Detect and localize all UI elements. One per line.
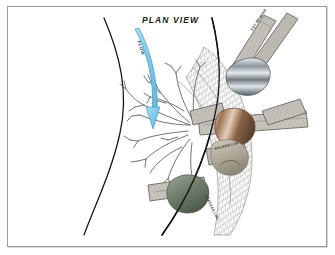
figure-canvas bbox=[8, 7, 326, 246]
ballast-boulder-lower bbox=[167, 175, 209, 213]
page-title: PLAN VIEW bbox=[142, 15, 199, 25]
figure-frame: PLAN VIEW FLOW KEY MEMBER RACKED LOG STA… bbox=[7, 6, 327, 247]
ballast-boulder-upper bbox=[226, 58, 270, 95]
figure-root: PLAN VIEW FLOW KEY MEMBER RACKED LOG STA… bbox=[0, 0, 335, 255]
left-bank-line bbox=[84, 18, 124, 235]
